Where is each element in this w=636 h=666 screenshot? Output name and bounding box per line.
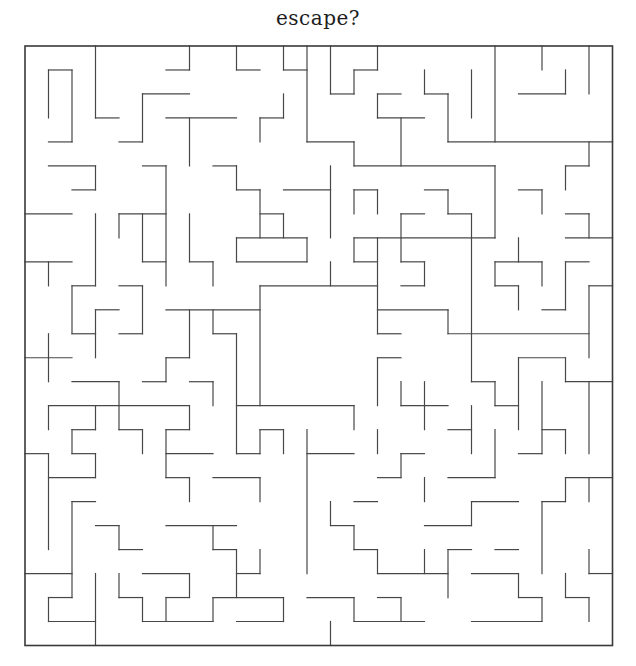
- maze-walls: [25, 46, 613, 646]
- maze-image: [0, 0, 636, 666]
- maze-border: [25, 46, 613, 646]
- maze-page: escape?: [0, 0, 636, 666]
